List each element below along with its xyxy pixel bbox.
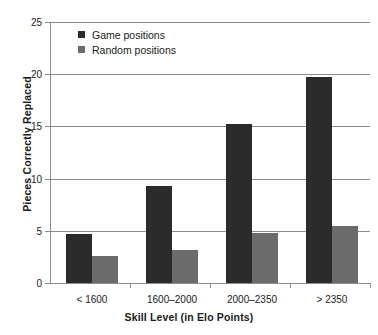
bar-random-1 — [92, 256, 118, 283]
x-tick-label-1: < 1600 — [77, 294, 108, 305]
gridline-25 — [50, 22, 370, 23]
legend-item-random-positions: Random positions — [78, 42, 176, 57]
legend-swatch-icon — [78, 31, 85, 38]
y-tick-mark — [45, 74, 50, 75]
gridline-20 — [50, 74, 370, 75]
bar-random-4 — [332, 226, 358, 283]
x-tick-label-2: 1600–2000 — [147, 294, 197, 305]
x-tick-mark — [290, 283, 291, 288]
x-tick-mark — [370, 283, 371, 288]
y-tick-mark — [45, 283, 50, 284]
bar-chart-figure: Pieces Correctly Replaced 25 20 15 10 5 — [0, 0, 378, 335]
y-axis-title: Pieces Correctly Replaced — [21, 34, 33, 254]
x-tick-label-4: > 2350 — [317, 294, 348, 305]
x-tick-mark — [130, 283, 131, 288]
bar-game-1 — [66, 234, 92, 283]
legend-item-game-positions: Game positions — [78, 27, 176, 42]
x-tick-label-3: 2000–2350 — [227, 294, 277, 305]
x-axis-title: Skill Level (in Elo Points) — [0, 311, 378, 323]
bar-game-3 — [226, 124, 252, 283]
y-tick-mark — [45, 126, 50, 127]
bar-game-2 — [146, 186, 172, 283]
bar-random-2 — [172, 250, 198, 283]
legend-label: Game positions — [92, 29, 165, 41]
y-tick-mark — [45, 22, 50, 23]
y-axis-line — [50, 22, 51, 283]
bar-random-3 — [252, 233, 278, 283]
y-tick-label: 15 — [31, 121, 42, 132]
y-tick-label: 10 — [31, 174, 42, 185]
y-tick-mark — [45, 231, 50, 232]
y-tick-label: 20 — [31, 69, 42, 80]
plot-area: 25 20 15 10 5 0 — [50, 22, 370, 283]
y-tick-label: 0 — [36, 278, 42, 289]
y-tick-label: 5 — [36, 226, 42, 237]
y-tick-mark — [45, 179, 50, 180]
x-tick-mark — [210, 283, 211, 288]
legend-label: Random positions — [92, 44, 176, 56]
legend-swatch-icon — [78, 46, 85, 53]
y-tick-label: 25 — [31, 17, 42, 28]
chart-legend: Game positions Random positions — [78, 27, 176, 57]
bar-game-4 — [306, 77, 332, 283]
